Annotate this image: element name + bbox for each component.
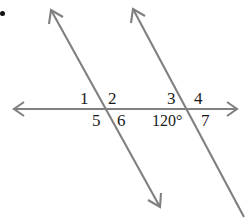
angle-label-1: 1 (80, 90, 89, 107)
geometry-figure: 1 2 5 6 3 4 120° 7 (0, 0, 245, 224)
angle-label-2: 2 (108, 90, 117, 107)
angle-label-3: 3 (167, 90, 176, 107)
angle-label-6: 6 (117, 112, 126, 129)
parallel-line-right-arrow-top (131, 9, 145, 23)
angle-label-5: 5 (92, 112, 101, 129)
angle-label-4: 4 (194, 90, 203, 107)
angle-label-7: 7 (201, 112, 210, 129)
angle-label-120-degrees: 120° (152, 112, 182, 129)
corner-dot (0, 11, 5, 16)
